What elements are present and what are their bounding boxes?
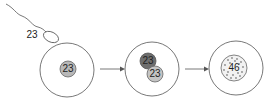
- egg-chromosome-label: 23: [61, 64, 75, 74]
- fertilization-diagram: 23 23 23 23 46: [0, 0, 274, 105]
- male-pronucleus-label: 23: [141, 56, 155, 66]
- arrow-icon: [204, 67, 209, 72]
- zygote-chromosome-label: 46: [227, 63, 241, 73]
- sperm-tail: [6, 4, 46, 32]
- female-pronucleus-label: 23: [148, 69, 162, 79]
- sperm-head: [42, 29, 61, 45]
- arrow-icon: [120, 67, 125, 72]
- sperm-chromosome-label: 23: [25, 30, 39, 40]
- diagram-graphics: [0, 0, 274, 105]
